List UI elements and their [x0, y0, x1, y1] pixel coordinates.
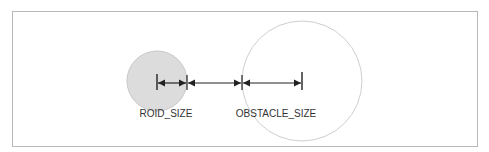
roid-size-label: ROID_SIZE: [140, 108, 193, 119]
diagram-frame: [13, 12, 478, 147]
obstacle-size-label: OBSTACLE_SIZE: [236, 108, 317, 119]
size-diagram: ROID_SIZE OBSTACLE_SIZE: [0, 0, 489, 152]
